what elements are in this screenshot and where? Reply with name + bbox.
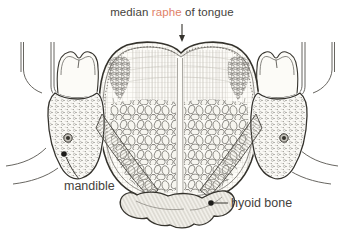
cheek-lines-right <box>296 42 335 97</box>
mandible-bone-left <box>48 93 104 179</box>
caption-raphe-highlight: raphe <box>152 6 182 18</box>
hyoid-bone-shape <box>120 191 234 228</box>
tongue-cross-section <box>90 35 270 205</box>
mandibular-canal-left <box>64 134 72 142</box>
caption-pre: median <box>110 6 152 18</box>
caption-post: of tongue <box>182 6 234 18</box>
figure-caption: median raphe of tongue <box>0 6 344 19</box>
median-raphe-arrow <box>179 24 185 42</box>
mandible-leader-dot <box>61 151 67 157</box>
anatomical-figure: median raphe of tongue mandible hyoid bo… <box>0 0 344 233</box>
hyoid-leader-dot <box>208 200 214 206</box>
lingual-septum-line <box>177 56 184 195</box>
mandibular-canal-right <box>280 134 288 142</box>
hyoid-label: hyoid bone <box>231 197 292 210</box>
cheek-lines-left <box>21 42 60 97</box>
mandible-label: mandible <box>64 180 115 193</box>
molar-tooth-right <box>257 52 298 98</box>
molar-tooth-left <box>57 52 98 98</box>
mandible-bone-right <box>251 93 307 179</box>
anatomy-illustration <box>0 0 344 233</box>
